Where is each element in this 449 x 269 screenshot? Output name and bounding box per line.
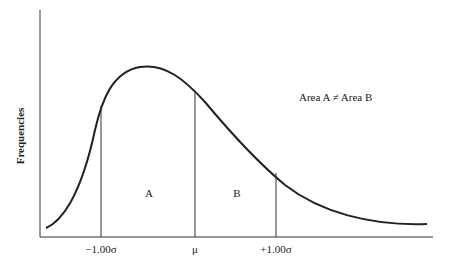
tick-minus-sigma: −1.00σ [85, 243, 116, 255]
y-axis-label: Frequencies [14, 107, 26, 164]
tick-plus-sigma: +1.00σ [260, 243, 291, 255]
skewed-distribution-diagram: Frequencies −1.00σ μ +1.00σ A B Area A ≠… [0, 0, 449, 269]
area-annotation: Area A ≠ Area B [299, 91, 372, 103]
diagram-svg: Frequencies −1.00σ μ +1.00σ A B Area A ≠… [0, 0, 449, 269]
tick-mu: μ [192, 243, 198, 255]
region-a-label: A [145, 187, 153, 199]
region-b-label: B [233, 187, 240, 199]
